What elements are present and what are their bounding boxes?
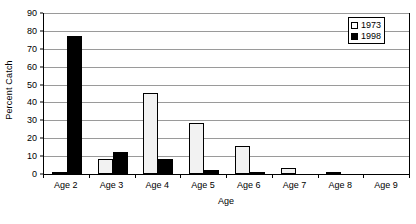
- legend-label: 1973: [361, 20, 381, 30]
- x-axis-tick-label: Age 4: [146, 180, 170, 191]
- x-axis-title: Age: [43, 196, 409, 207]
- x-axis-tick-mark: [363, 174, 364, 178]
- legend-entry: 1973: [351, 20, 381, 30]
- x-axis-tick-labels: Age 2Age 3Age 4Age 5Age 6Age 7Age 8Age 9: [43, 180, 409, 194]
- bar: [235, 146, 250, 174]
- filled-square-icon: [351, 33, 358, 40]
- x-axis-tick-marks: [43, 174, 409, 178]
- y-axis-tick-label: 0: [32, 170, 37, 179]
- y-axis-tick-label: 50: [27, 80, 37, 89]
- x-axis-tick-mark: [89, 174, 90, 178]
- bar-group: [90, 13, 136, 174]
- bar: [189, 123, 204, 174]
- bar-group: [181, 13, 227, 174]
- x-axis-tick-mark: [135, 174, 136, 178]
- x-axis-tick-label: Age 8: [329, 180, 353, 191]
- x-axis-tick-label: Age 9: [374, 180, 398, 191]
- bar-group: [44, 13, 90, 174]
- legend: 19731998: [348, 17, 385, 44]
- x-axis-tick-mark: [43, 174, 44, 178]
- y-axis-tick-labels: 0102030405060708090: [18, 13, 40, 174]
- y-axis-title-text: Percent Catch: [4, 60, 14, 120]
- bar-group: [136, 13, 182, 174]
- bar: [143, 93, 158, 174]
- x-axis-tick-mark: [318, 174, 319, 178]
- bar: [67, 36, 82, 174]
- legend-entry: 1998: [351, 31, 381, 41]
- x-axis-tick-label: Age 5: [191, 180, 215, 191]
- legend-label: 1998: [361, 31, 381, 41]
- x-axis-tick-mark: [409, 174, 410, 178]
- y-axis-tick-label: 60: [27, 62, 37, 71]
- bar-group: [227, 13, 273, 174]
- y-axis-tick-label: 90: [27, 9, 37, 18]
- x-axis-tick-label: Age 7: [283, 180, 307, 191]
- x-axis-tick-label: Age 6: [237, 180, 261, 191]
- y-axis-tick-label: 10: [27, 152, 37, 161]
- x-axis-tick-label: Age 2: [54, 180, 78, 191]
- y-axis-tick-label: 20: [27, 134, 37, 143]
- bar-group: [273, 13, 319, 174]
- bar: [98, 159, 113, 174]
- x-axis-tick-mark: [180, 174, 181, 178]
- x-axis-tick-mark: [226, 174, 227, 178]
- x-axis-tick-label: Age 3: [100, 180, 124, 191]
- x-axis-tick-mark: [272, 174, 273, 178]
- bar-chart: Percent Catch 0102030405060708090 Age 2A…: [0, 0, 416, 224]
- bar: [113, 152, 128, 174]
- y-axis-tick-label: 40: [27, 98, 37, 107]
- y-axis-title: Percent Catch: [0, 0, 18, 180]
- bar: [158, 159, 173, 174]
- hollow-square-icon: [351, 22, 358, 29]
- plot-frame-right-edge: [409, 13, 410, 175]
- y-axis-tick-label: 80: [27, 26, 37, 35]
- y-axis-tick-label: 70: [27, 44, 37, 53]
- y-axis-tick-label: 30: [27, 116, 37, 125]
